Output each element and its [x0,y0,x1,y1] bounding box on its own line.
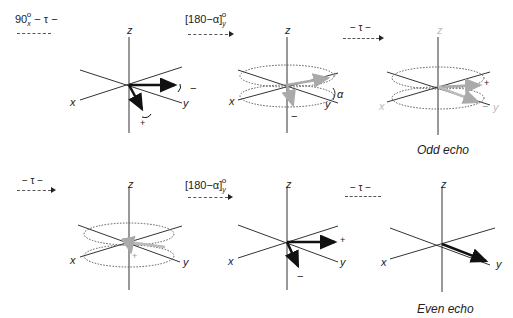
magnetization-vector [442,244,486,261]
caption-even-echo: Even echo [417,302,474,316]
axis-label-z: z [441,178,447,190]
axis-label-x: x [381,256,387,268]
vector-diagram-6 [0,0,513,318]
axis-label-y: y [496,258,502,270]
axes-panel-6 [390,187,495,292]
